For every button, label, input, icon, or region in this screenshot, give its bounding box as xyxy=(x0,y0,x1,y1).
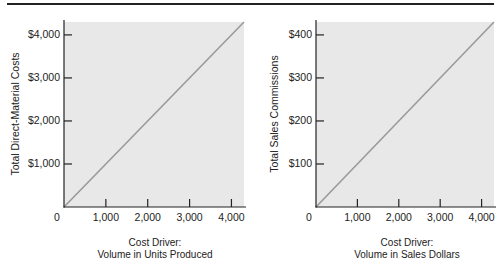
x-axis-label-line1: Cost Driver: xyxy=(307,237,496,249)
svg-text:$3,000: $3,000 xyxy=(28,71,60,83)
x-axis-label: Cost Driver: Volume in Sales Dollars xyxy=(307,237,496,261)
x-axis-label: Cost Driver: Volume in Units Produced xyxy=(55,237,255,261)
chart-plot: $100$200$300$40001,0002,0003,0004,000 xyxy=(252,0,496,271)
svg-text:0: 0 xyxy=(54,211,60,223)
chart-plot: $1,000$2,000$3,000$4,00001,0002,0003,000… xyxy=(0,0,248,271)
svg-text:1,000: 1,000 xyxy=(93,211,119,223)
svg-text:$2,000: $2,000 xyxy=(28,114,60,126)
svg-text:$300: $300 xyxy=(289,71,313,83)
svg-text:$1,000: $1,000 xyxy=(28,157,60,169)
svg-text:4,000: 4,000 xyxy=(218,211,244,223)
svg-text:$400: $400 xyxy=(289,28,313,40)
direct-material-costs-chart: $1,000$2,000$3,000$4,00001,0002,0003,000… xyxy=(0,0,248,271)
svg-text:3,000: 3,000 xyxy=(427,211,453,223)
sales-commissions-chart: $100$200$300$40001,0002,0003,0004,000 To… xyxy=(252,0,496,271)
svg-text:4,000: 4,000 xyxy=(468,211,494,223)
y-axis-label: Total Sales Commissions xyxy=(268,14,280,214)
svg-text:$4,000: $4,000 xyxy=(28,28,60,40)
svg-text:0: 0 xyxy=(306,211,312,223)
svg-text:2,000: 2,000 xyxy=(386,211,412,223)
svg-text:$200: $200 xyxy=(289,114,313,126)
x-axis-label-line2: Volume in Units Produced xyxy=(55,249,255,261)
x-axis-label-line1: Cost Driver: xyxy=(55,237,255,249)
y-axis-label: Total Direct-Material Costs xyxy=(9,14,21,214)
svg-text:2,000: 2,000 xyxy=(135,211,161,223)
svg-text:3,000: 3,000 xyxy=(176,211,202,223)
svg-text:1,000: 1,000 xyxy=(344,211,370,223)
x-axis-label-line2: Volume in Sales Dollars xyxy=(307,249,496,261)
svg-text:$100: $100 xyxy=(289,157,313,169)
